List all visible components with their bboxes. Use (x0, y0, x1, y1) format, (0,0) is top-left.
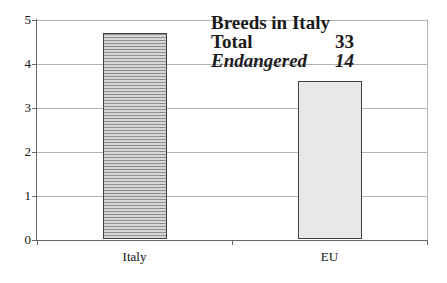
y-axis-line (36, 19, 37, 240)
y-tick-label-5: 5 (5, 12, 31, 28)
annotation-endangered-label: Endangered (211, 51, 335, 70)
bar-italy (103, 33, 167, 240)
y-tick-label-2: 2 (5, 144, 31, 160)
plot-right-border (427, 19, 428, 240)
chart-annotation: Breeds in Italy Total 33 Endangered 14 (211, 13, 427, 70)
gridline-y2 (37, 152, 427, 153)
x-axis-tick-0 (37, 240, 38, 245)
bar-chart: 012345ItalyEU Breeds in Italy Total 33 E… (0, 0, 447, 283)
annotation-row-endangered: Endangered 14 (211, 51, 427, 70)
x-axis-tick-1 (232, 240, 233, 245)
gridline-y1 (37, 196, 427, 197)
annotation-endangered-value: 14 (335, 51, 354, 70)
annotation-total-label: Total (211, 32, 335, 51)
x-axis-tick-2 (427, 240, 428, 245)
x-category-label-italy: Italy (85, 249, 185, 265)
y-tick-label-3: 3 (5, 100, 31, 116)
bar-eu (298, 81, 362, 239)
gridline-y3 (37, 108, 427, 109)
y-tick-label-4: 4 (5, 56, 31, 72)
annotation-row-total: Total 33 (211, 32, 427, 51)
y-tick-label-0: 0 (5, 232, 31, 248)
x-category-label-eu: EU (280, 249, 380, 265)
annotation-total-value: 33 (335, 32, 354, 51)
annotation-title: Breeds in Italy (211, 13, 427, 32)
y-tick-label-1: 1 (5, 188, 31, 204)
